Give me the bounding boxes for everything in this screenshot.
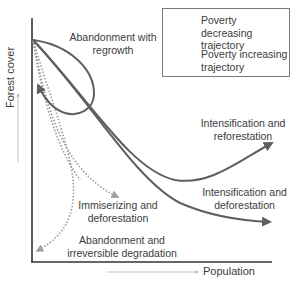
legend-label: Poverty decreasing trajectory xyxy=(201,14,289,52)
trajectory-immiserizing-deforestation xyxy=(33,40,118,197)
label-intensification-reforestation: Intensification and reforestation xyxy=(190,117,296,142)
label-line: deforestation xyxy=(73,212,163,225)
label-line: reforestation xyxy=(190,130,296,143)
label-line: Abandonment with xyxy=(58,31,168,44)
label-intensification-deforestation: Intensification and deforestation xyxy=(193,186,296,211)
x-axis-title: Population xyxy=(203,265,255,277)
legend-item-poverty-increasing: Poverty increasing trajectory xyxy=(163,48,291,76)
label-line: irreversible degradation xyxy=(66,247,178,260)
label-line: Abandonment and xyxy=(66,234,178,247)
diagram-canvas: Poverty decreasing trajectory Poverty in… xyxy=(0,0,296,284)
trajectory-abandonment-degradation xyxy=(33,40,74,251)
label-immiserizing-deforestation: Immiserizing and deforestation xyxy=(73,199,163,224)
legend-item-poverty-decreasing: Poverty decreasing trajectory xyxy=(163,14,291,42)
legend-box: Poverty decreasing trajectory Poverty in… xyxy=(162,8,290,77)
legend-label: Poverty increasing trajectory xyxy=(201,48,289,73)
label-line: Intensification and xyxy=(190,117,296,130)
label-line: regrowth xyxy=(58,44,168,57)
label-line: deforestation xyxy=(193,199,296,212)
label-abandonment-regrowth: Abandonment with regrowth xyxy=(58,31,168,56)
label-line: Intensification and xyxy=(193,186,296,199)
label-abandonment-degradation: Abandonment and irreversible degradation xyxy=(66,234,178,259)
y-axis-title: Forest cover xyxy=(4,48,16,108)
label-line: Immiserizing and xyxy=(73,199,163,212)
